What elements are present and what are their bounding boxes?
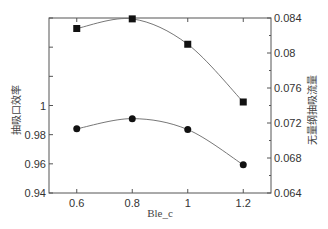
- square-marker: [184, 41, 191, 48]
- right-y-tick-label: 0.076: [274, 82, 302, 94]
- x-tick-label: 0.8: [125, 197, 140, 209]
- circle-marker: [73, 125, 80, 132]
- right-y-tick-label: 0.068: [274, 152, 302, 164]
- square-marker: [73, 25, 80, 32]
- plot-frame: [49, 18, 271, 193]
- dual-axis-line-chart: 0.60.811.20.940.960.9810.0640.0680.0720.…: [0, 0, 328, 229]
- circle-marker: [129, 115, 136, 122]
- flow-rate-curve: [77, 18, 244, 102]
- left-y-tick-label: 0.96: [25, 158, 46, 170]
- efficiency-curve: [77, 119, 244, 165]
- left-y-axis-title: 抽吸口效率: [10, 85, 22, 135]
- right-y-tick-label: 0.072: [274, 117, 302, 129]
- series-curves: [77, 18, 244, 164]
- left-y-tick-label: 1: [40, 100, 46, 112]
- x-tick-label: 0.6: [69, 197, 84, 209]
- circle-marker: [240, 161, 247, 168]
- right-y-axis-title: 无量纲抽吸流量: [306, 75, 318, 145]
- circle-marker: [184, 126, 191, 133]
- axis-ticks: [49, 18, 271, 193]
- left-y-tick-label: 0.94: [25, 187, 46, 199]
- right-y-tick-label: 0.064: [274, 187, 302, 199]
- square-marker: [240, 99, 247, 106]
- x-tick-label: 1: [185, 197, 191, 209]
- left-y-tick-label: 0.98: [25, 129, 46, 141]
- right-y-tick-label: 0.08: [274, 47, 295, 59]
- right-y-tick-label: 0.084: [274, 12, 302, 24]
- x-axis-title: Ble_c: [147, 207, 173, 219]
- plot-border: [49, 18, 271, 193]
- tick-labels: 0.60.811.20.940.960.9810.0640.0680.0720.…: [25, 12, 302, 209]
- x-tick-label: 1.2: [236, 197, 251, 209]
- square-marker: [129, 15, 136, 22]
- series-markers: [73, 15, 247, 168]
